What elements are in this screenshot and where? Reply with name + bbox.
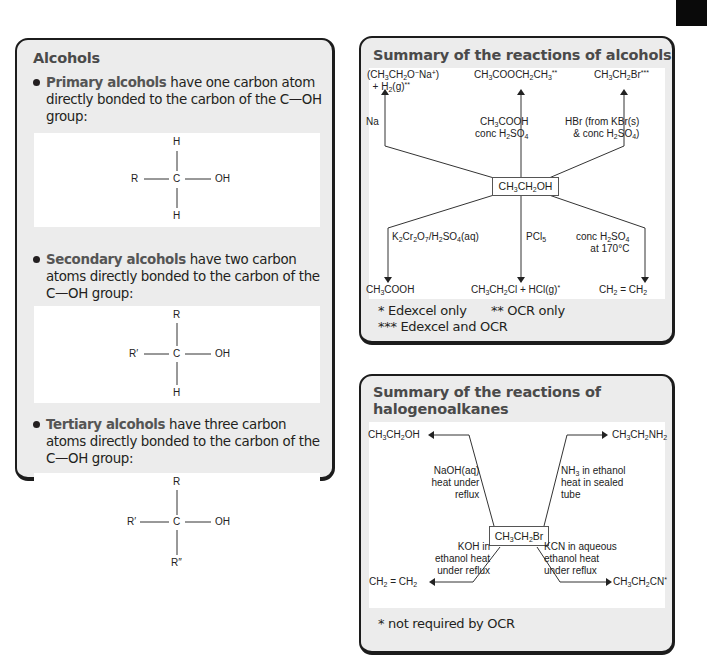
atom-top: R: [173, 309, 180, 320]
footnote-edexcel-only: * Edexcel only: [378, 303, 467, 318]
secondary-structure: R R′ C OH H: [34, 306, 320, 403]
alcohol-reactions-panel: Summary of the reactions of alcohols CH3…: [359, 36, 675, 345]
reagent-naoh: NaOH(aq)heat under reflux: [431, 465, 479, 501]
reagent-koh: KOH inethanol heatunder reflux: [435, 541, 490, 577]
atom-bottom: H: [173, 387, 180, 398]
product-ethene: CH2 = CH2: [369, 576, 417, 588]
atom-left: R′: [129, 348, 138, 359]
tertiary-term: Tertiary alcohols: [46, 417, 165, 432]
tertiary-alcohols-bullet: Tertiary alcohols have three carbon atom…: [33, 416, 323, 467]
primary-term: Primary alcohols: [46, 75, 166, 90]
atom-bottom: H: [173, 210, 180, 221]
page-edge-tab: [676, 0, 707, 26]
primary-alcohols-bullet: Primary alcohols have one carbon atom di…: [33, 74, 323, 125]
product-chloroethane: CH3CH2Cl + HCl(g)*: [471, 284, 560, 296]
product-nitrile: CH3CH2CN*: [613, 576, 667, 588]
reagent-dehydration: conc H2SO4 at 170°C: [576, 231, 629, 255]
atom-center: C: [173, 173, 180, 184]
halogenoalkane-reactions-title: Summary of the reactions ofhalogenoalkan…: [373, 384, 601, 418]
bullet-icon: [33, 421, 40, 428]
footnote-not-required-ocr: * not required by OCR: [378, 616, 515, 631]
footnote-ocr-only: ** OCR only: [491, 303, 565, 318]
secondary-term: Secondary alcohols: [46, 252, 186, 267]
reagent-esterification: CH3COOHconc H2SO4: [469, 116, 528, 140]
atom-center: C: [173, 516, 180, 527]
atom-right: OH: [215, 516, 230, 527]
atom-top: R: [173, 476, 180, 487]
atom-bottom: R″: [171, 557, 182, 568]
reagent-kcn: KCN in aqueousethanol heatunder reflux: [544, 541, 617, 577]
reagent-pcl5: PCl5: [526, 231, 546, 243]
atom-left: R′: [127, 516, 136, 527]
product-ester: CH3COOCH2CH3**: [474, 69, 557, 81]
reagent-hbr: HBr (from KBr(s) & conc H2SO4): [565, 116, 639, 140]
atom-right: OH: [215, 348, 230, 359]
product-sodium-ethoxide: (CH3CH2O−Na+) + H2(g)**: [367, 69, 439, 93]
product-ethanol: CH3CH2OH: [368, 429, 420, 441]
ethanol-center-box: CH3CH2OH: [492, 177, 559, 196]
atom-center: C: [173, 348, 180, 359]
atom-left: R: [131, 173, 138, 184]
halogenoalkane-reactions-diagram: CH3CH2Br CH3CH2OH CH3CH2NH2 NaOH(aq)heat…: [369, 422, 665, 608]
product-ethene: CH2 = CH2: [599, 284, 647, 296]
atom-right: OH: [215, 173, 230, 184]
alcohol-reactions-diagram: CH3CH2OH (CH3CH2O−Na+) + H2(g)** CH3COOC…: [369, 68, 665, 299]
bromoethane-center-box: CH3CH2Br: [489, 526, 549, 546]
bullet-icon: [33, 256, 40, 263]
secondary-alcohols-bullet: Secondary alcohols have two carbon atoms…: [33, 251, 323, 302]
bullet-icon: [33, 79, 40, 86]
product-acid: CH3COOH: [366, 284, 414, 296]
atom-top: H: [173, 136, 180, 147]
alcohols-panel: Alcohols Primary alcohols have one carbo…: [15, 38, 335, 481]
product-ethylamine: CH3CH2NH2: [612, 429, 667, 441]
halogenoalkane-reactions-panel: Summary of the reactions ofhalogenoalkan…: [359, 374, 675, 655]
primary-structure: H R C OH H: [34, 133, 320, 227]
alcohols-title: Alcohols: [33, 50, 100, 66]
reagent-oxidation: K2Cr2O7/H2SO4(aq): [392, 231, 479, 243]
footnote-edexcel-and-ocr: *** Edexcel and OCR: [378, 319, 507, 334]
reagent-na: Na: [366, 116, 379, 128]
tertiary-structure: R R′ C OH R″: [34, 473, 320, 574]
product-bromoethane: CH3CH2Br***: [594, 69, 649, 81]
alcohol-reactions-title: Summary of the reactions of alcohols: [373, 47, 671, 63]
reagent-nh3: NH3 in ethanolheat in sealedtube: [561, 465, 626, 501]
